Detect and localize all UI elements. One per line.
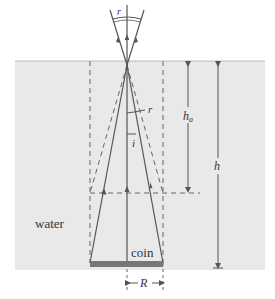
label-r-top: r [117,6,121,17]
label-h: h [214,159,220,173]
arrow-air-center [125,34,130,40]
label-coin: coin [131,245,154,260]
refraction-diagram: r r i ha h coin water R [0,0,275,299]
label-R: R [139,276,148,290]
label-water: water [35,216,65,231]
coin [90,261,163,267]
air-ray-left [110,10,127,65]
water-region [15,61,265,270]
air-ray-right [127,10,144,65]
label-i: i [132,137,135,149]
label-r-mid: r [148,103,153,115]
